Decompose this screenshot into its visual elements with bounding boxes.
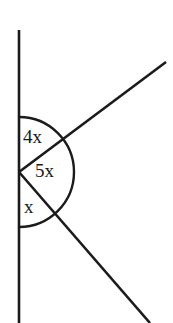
geometry-diagram-canvas: 4x 5x x [0, 0, 173, 323]
angle-label-x: x [24, 196, 34, 217]
diagram-background [0, 0, 173, 323]
angle-label-4x: 4x [23, 126, 43, 147]
angle-label-5x: 5x [35, 160, 55, 181]
angle-diagram-svg: 4x 5x x [0, 0, 173, 323]
